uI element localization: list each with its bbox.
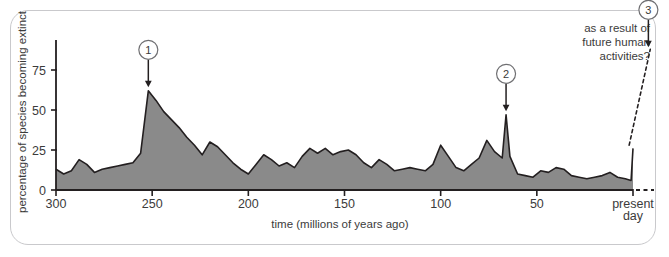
y-tick-label: 25 bbox=[32, 144, 46, 158]
y-tick-label: 75 bbox=[32, 64, 46, 78]
future-note-line3: activities? bbox=[600, 50, 651, 62]
x-axis-present-day-label-line2: day bbox=[623, 209, 644, 223]
callout-arrow-head bbox=[503, 105, 510, 112]
x-tick-label: 150 bbox=[334, 197, 355, 211]
series-area-extinction bbox=[56, 91, 633, 190]
y-axis-title: percentage of species becoming extinct bbox=[16, 10, 28, 213]
x-tick-label: 200 bbox=[238, 197, 259, 211]
y-tick-label: 0 bbox=[39, 184, 46, 198]
future-note-line1: as a result of bbox=[584, 22, 651, 34]
callout-group: 123 bbox=[139, 0, 658, 111]
x-axis-title: time (millions of years ago) bbox=[271, 218, 409, 230]
extinction-area-chart: 0255075 30025020015010050 present day ti… bbox=[0, 0, 669, 257]
x-tick-label: 50 bbox=[530, 197, 544, 211]
callout-badge-label: 1 bbox=[145, 44, 151, 56]
callout-1: 1 bbox=[139, 40, 158, 87]
projection-dashed-line bbox=[629, 49, 650, 145]
figure-container: 0255075 30025020015010050 present day ti… bbox=[0, 0, 669, 257]
y-tick-label: 50 bbox=[32, 104, 46, 118]
x-tick-label: 100 bbox=[430, 197, 451, 211]
callout-badge-label: 3 bbox=[645, 4, 651, 16]
callout-badge-label: 2 bbox=[503, 68, 509, 80]
x-tick-labels: 30025020015010050 bbox=[46, 197, 544, 211]
x-tick-label: 300 bbox=[46, 197, 67, 211]
future-projection bbox=[629, 49, 650, 145]
callout-2: 2 bbox=[497, 64, 516, 111]
future-note-line2: future human bbox=[582, 36, 650, 48]
future-activities-note: as a result of future human activities? bbox=[582, 22, 651, 62]
callout-arrow-head bbox=[145, 81, 152, 88]
y-tick-labels: 0255075 bbox=[32, 64, 46, 198]
x-tick-label: 250 bbox=[142, 197, 163, 211]
